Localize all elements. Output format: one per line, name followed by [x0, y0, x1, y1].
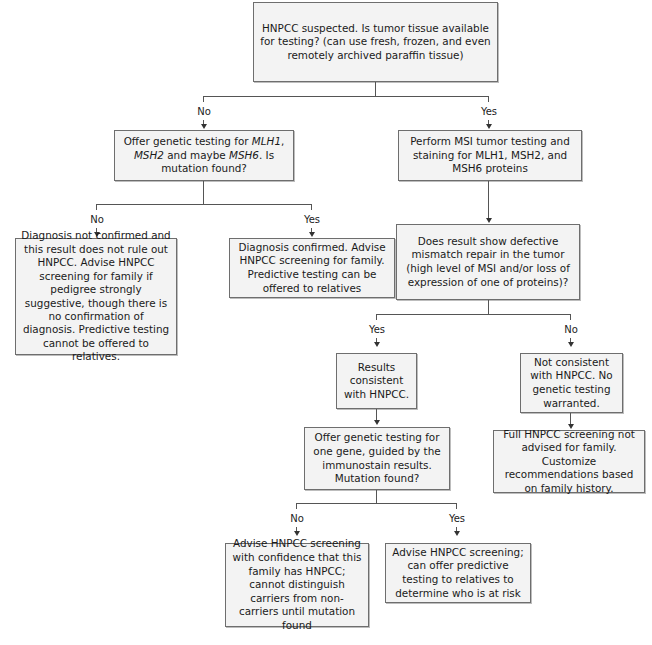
connector	[96, 204, 312, 205]
node-text: Diagnosis confirmed. Advise HNPCC screen…	[235, 241, 389, 295]
node-text: Does result show defective mismatch repa…	[402, 235, 574, 289]
connector	[296, 503, 297, 509]
node-text: Perform MSI tumor testing and staining f…	[404, 135, 576, 176]
connector	[488, 96, 489, 102]
connector	[203, 181, 204, 204]
connector	[376, 314, 377, 320]
node-advise-predictive-testing: Advise HNPCC screening; can offer predic…	[385, 543, 531, 603]
node-advise-with-confidence: Advise HNPCC screening with confidence t…	[225, 543, 369, 627]
node-text: Offer genetic testing for MLH1, MSH2 and…	[120, 135, 288, 176]
arrow-down-icon	[374, 342, 380, 347]
node-offer-one-gene: Offer genetic testing for one gene, guid…	[304, 427, 450, 490]
node-not-consistent: Not consistent with HNPCC. No genetic te…	[520, 353, 623, 413]
edge-label-no: No	[564, 324, 578, 335]
edge-label-yes: Yes	[481, 106, 497, 117]
node-text: HNPCC suspected. Is tumor tissue availab…	[259, 22, 492, 63]
connector	[96, 204, 97, 210]
arrow-down-icon	[454, 531, 460, 536]
connector	[488, 300, 489, 314]
edge-label-no: No	[290, 513, 304, 524]
node-full-screening-not-advised: Full HNPCC screening not advised for fam…	[493, 430, 645, 493]
edge-label-yes: Yes	[369, 324, 385, 335]
arrow-down-icon	[294, 531, 300, 536]
edge-label-yes: Yes	[449, 513, 465, 524]
node-text: Full HNPCC screening not advised for fam…	[499, 428, 639, 496]
node-offer-genetic-testing: Offer genetic testing for MLH1, MSH2 and…	[114, 130, 294, 181]
connector	[311, 204, 312, 210]
arrow-down-icon	[486, 218, 492, 223]
node-text: Diagnosis not confirmed and this result …	[21, 229, 171, 363]
edge-label-no: No	[197, 106, 211, 117]
node-text: Advise HNPCC screening; can offer predic…	[391, 546, 525, 600]
arrow-down-icon	[374, 420, 380, 425]
node-diagnosis-confirmed: Diagnosis confirmed. Advise HNPCC screen…	[229, 238, 395, 298]
arrow-down-icon	[309, 232, 315, 237]
connector	[488, 181, 489, 219]
connector	[203, 96, 204, 102]
connector	[376, 314, 571, 315]
connector	[456, 503, 457, 509]
arrow-down-icon	[568, 342, 574, 347]
connector	[375, 82, 376, 96]
node-msi-testing: Perform MSI tumor testing and staining f…	[398, 130, 582, 181]
node-text: Not consistent with HNPCC. No genetic te…	[526, 356, 617, 410]
node-text: Advise HNPCC screening with confidence t…	[231, 537, 363, 632]
edge-label-no: No	[90, 214, 104, 225]
node-results-consistent: Results consistent with HNPCC.	[336, 353, 417, 409]
connector	[570, 314, 571, 320]
node-defective-mismatch-repair: Does result show defective mismatch repa…	[396, 224, 580, 300]
connector	[296, 503, 457, 504]
node-hnpcc-suspected: HNPCC suspected. Is tumor tissue availab…	[253, 2, 498, 82]
node-text: Results consistent with HNPCC.	[342, 361, 411, 402]
node-text: Offer genetic testing for one gene, guid…	[310, 431, 444, 485]
node-diagnosis-not-confirmed: Diagnosis not confirmed and this result …	[15, 238, 177, 355]
connector	[203, 96, 489, 97]
edge-label-yes: Yes	[304, 214, 320, 225]
arrow-down-icon	[201, 124, 207, 129]
connector	[376, 490, 377, 503]
arrow-down-icon	[486, 124, 492, 129]
